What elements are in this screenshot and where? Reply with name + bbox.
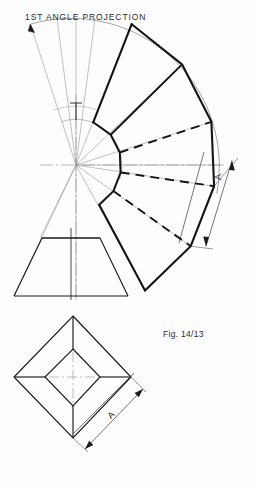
page-title: 1ST ANGLE PROJECTION [25, 12, 146, 22]
development-dimension-a-label: A [213, 174, 223, 180]
technical-drawing-canvas [0, 0, 255, 488]
figure-caption: Fig. 14/13 [163, 329, 204, 339]
page-background [0, 0, 255, 488]
